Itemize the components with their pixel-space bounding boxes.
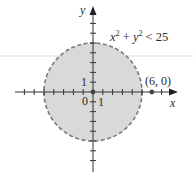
y-tick-label-1: 1 [81, 75, 87, 89]
x-tick-label-1: 1 [98, 95, 104, 109]
y-axis-arrow-icon [90, 6, 97, 15]
point-label-6-0: (6, 0) [145, 74, 171, 88]
x-axis-arrow-icon [169, 89, 178, 96]
origin-label: 0 [82, 94, 88, 108]
inequality-graph: y x 1 0 1 (6, 0) x2 + y2 < 25 [0, 0, 193, 182]
y-axis-label: y [79, 3, 86, 17]
point-6-0 [149, 90, 154, 95]
origin-point [91, 90, 96, 95]
x-axis-label: x [169, 96, 176, 110]
inequality-label: x2 + y2 < 25 [109, 29, 168, 44]
